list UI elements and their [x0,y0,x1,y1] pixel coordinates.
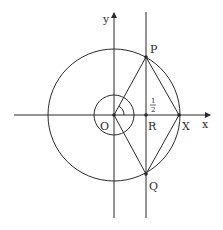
point-r-label: R [148,120,157,133]
point-p-label: P [150,43,158,56]
segment-oq [114,115,146,174]
point-q-label: Q [149,180,158,193]
segment-op [114,57,146,115]
point-q [144,172,148,176]
angle-arc-pox [119,106,124,115]
point-p [144,55,148,59]
x-axis-label: x [202,118,209,131]
point-o [112,113,116,117]
origin-label: O [100,120,109,133]
half-denominator: 2 [151,106,155,114]
point-r [144,113,148,117]
half-numerator: 1 [151,97,155,105]
point-x [177,113,181,117]
unit-circle-diagram: y x O P Q R X 1 2 [0,0,223,230]
point-x-label: X [182,120,190,133]
y-axis-label: y [102,13,110,26]
